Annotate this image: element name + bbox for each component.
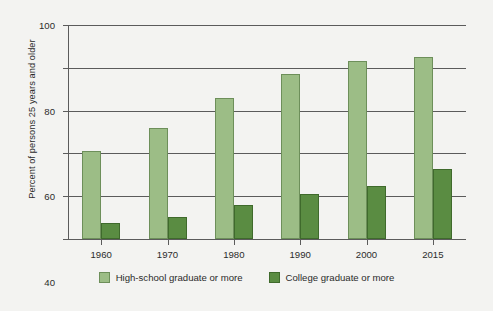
legend: High-school graduate or more College gra… [0, 272, 493, 283]
bar-2000-series-1 [367, 186, 386, 240]
x-tick-mark-1980 [234, 239, 235, 245]
bar-2015-series-1 [433, 169, 452, 239]
y-tick-label-60: 60 [44, 191, 55, 202]
gridline-40 [68, 153, 466, 154]
x-tick-mark-2000 [367, 239, 368, 245]
bar-1980-series-1 [234, 205, 253, 239]
legend-item-college[interactable]: College graduate or more [269, 272, 395, 283]
y-tick-mark-0: 0 [63, 239, 68, 240]
legend-label-high-school: High-school graduate or more [116, 272, 243, 283]
bar-1970-series-1 [168, 217, 187, 239]
x-tick-label-1960: 1960 [90, 249, 111, 260]
legend-swatch-icon-college [269, 272, 280, 283]
plot-area: 020406080100 196019701980199020002015 [68, 25, 466, 239]
bar-2000-series-0 [348, 61, 367, 239]
y-tick-label-80: 80 [44, 105, 55, 116]
x-tick-mark-1970 [168, 239, 169, 245]
bar-2015-series-0 [414, 57, 433, 239]
bar-1960-series-1 [101, 223, 120, 239]
gridline-80 [68, 68, 466, 69]
bar-1990-series-0 [281, 74, 300, 239]
x-tick-label-2000: 2000 [356, 249, 377, 260]
y-tick-mark-20: 20 [63, 196, 68, 197]
x-tick-label-1990: 1990 [289, 249, 310, 260]
y-tick-mark-100: 100 [63, 25, 68, 26]
y-axis-line [68, 25, 69, 239]
y-tick-mark-60: 60 [63, 111, 68, 112]
gridline-0 [68, 239, 466, 240]
bar-1970-series-0 [149, 128, 168, 239]
x-tick-mark-1990 [300, 239, 301, 245]
x-tick-mark-1960 [101, 239, 102, 245]
bar-1990-series-1 [300, 194, 319, 239]
legend-label-college: College graduate or more [286, 272, 395, 283]
bar-1960-series-0 [82, 151, 101, 239]
gridline-100 [68, 25, 466, 26]
x-tick-mark-2015 [433, 239, 434, 245]
x-tick-label-2015: 2015 [422, 249, 443, 260]
gridline-60 [68, 111, 466, 112]
legend-swatch-icon-high-school [99, 272, 110, 283]
y-axis-title: Percent of persons 25 years and older [27, 9, 37, 229]
legend-item-high-school[interactable]: High-school graduate or more [99, 272, 243, 283]
bar-1980-series-0 [215, 98, 234, 239]
x-tick-label-1970: 1970 [157, 249, 178, 260]
y-tick-mark-80: 80 [63, 68, 68, 69]
gridline-20 [68, 196, 466, 197]
y-tick-mark-40: 40 [63, 153, 68, 154]
x-tick-label-1980: 1980 [223, 249, 244, 260]
bar-chart: Percent of persons 25 years and older 02… [0, 0, 493, 311]
y-tick-label-100: 100 [39, 20, 55, 31]
